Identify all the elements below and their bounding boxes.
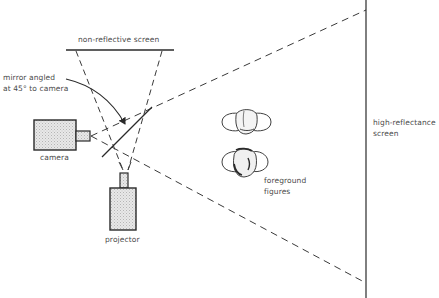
- mirror-line: [102, 107, 152, 157]
- diagram-canvas: non-reflective screen mirror angled at 4…: [0, 0, 439, 298]
- camera-label: camera: [40, 152, 69, 163]
- foreground-label-line-2: figures: [264, 186, 306, 197]
- foreground-label-line-1: foreground: [264, 175, 306, 186]
- non-reflective-screen-text: non-reflective screen: [78, 34, 159, 45]
- camera-text: camera: [40, 152, 69, 163]
- high-reflectance-label-line-2: screen: [373, 128, 436, 139]
- foreground-figure-1-icon: [222, 110, 271, 134]
- foreground-figure-2-icon: [222, 149, 268, 177]
- mirror-label: mirror angled at 45° to camera: [3, 72, 68, 94]
- projector-icon: [110, 173, 136, 230]
- high-reflectance-screen-label: high-reflectance screen: [373, 117, 436, 139]
- projector-text: projector: [105, 234, 140, 245]
- diagram-svg: [0, 0, 439, 298]
- mirror-label-line-1: mirror angled: [3, 72, 68, 83]
- foreground-figures-label: foreground figures: [264, 175, 306, 197]
- non-reflective-screen-label: non-reflective screen: [78, 34, 159, 45]
- camera-icon: [34, 120, 90, 150]
- high-reflectance-label-line-1: high-reflectance: [373, 117, 436, 128]
- projector-label: projector: [105, 234, 140, 245]
- mirror-label-line-2: at 45° to camera: [3, 83, 68, 94]
